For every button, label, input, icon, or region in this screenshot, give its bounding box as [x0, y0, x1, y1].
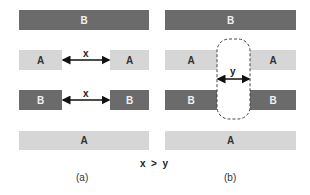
arrows-overlay [0, 0, 310, 195]
